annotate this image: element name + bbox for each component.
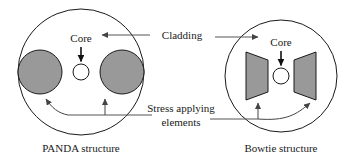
panda-caption: PANDA structure (42, 142, 120, 154)
stress-label-line2: elements (161, 116, 200, 128)
bowtie-panel: Core Bowtie structure (210, 20, 337, 154)
panda-panel: Core PANDA structure (18, 9, 152, 154)
bowtie-stress-element-right (294, 52, 316, 100)
panda-core-circle (73, 64, 89, 80)
bowtie-stress-element-left (246, 52, 268, 100)
panda-core-label: Core (70, 32, 92, 44)
bowtie-core-circle (273, 68, 289, 84)
bowtie-core-label: Core (270, 36, 292, 48)
cladding-label: Cladding (162, 29, 203, 41)
fiber-cross-section-diagram: Core PANDA structure Core Bowtie structu… (0, 0, 358, 161)
bowtie-caption: Bowtie structure (244, 142, 317, 154)
panda-stress-element-right (100, 50, 144, 94)
stress-label-line1: Stress applying (147, 102, 215, 114)
panda-stress-element-left (18, 50, 62, 94)
